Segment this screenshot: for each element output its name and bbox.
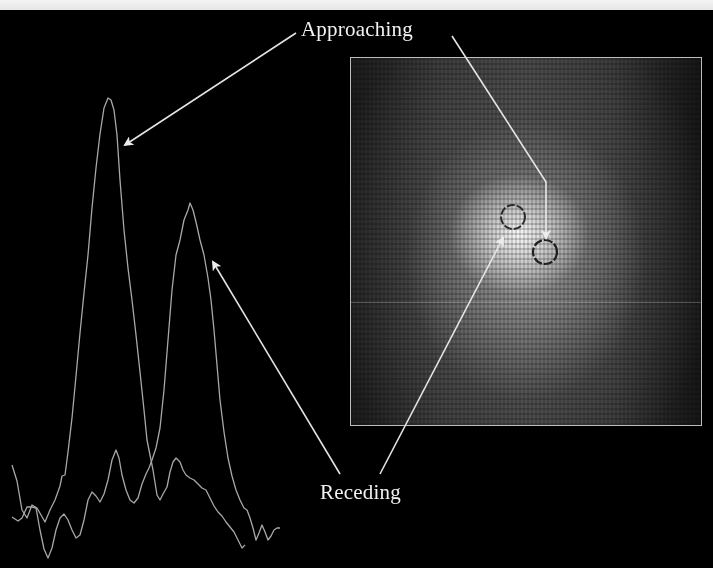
receding-to-image-arrow [380,238,503,474]
approaching-label: Approaching [301,17,413,42]
receding-label: Receding [320,480,401,505]
receding-to-spectrum-arrow [213,262,340,474]
approaching-circle-marker [533,240,557,264]
approaching-to-image-arrow [452,36,546,238]
figure: Approaching Receding [0,0,713,568]
receding-circle-marker [501,205,525,229]
approaching-to-spectrum-arrow [125,33,296,145]
approaching-spectrum-line [12,98,245,548]
